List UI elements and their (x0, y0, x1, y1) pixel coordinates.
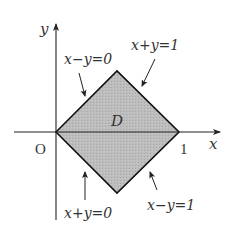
region-label: D (110, 112, 123, 130)
label-x-minus-y-eq-0: x−y=0 (64, 51, 112, 67)
label-x-plus-y-eq-0: x+y=0 (64, 205, 112, 221)
y-axis-label: y (39, 20, 49, 38)
pointer-arrow-upper-left (79, 73, 85, 96)
label-x-plus-y-eq-1: x+y=1 (131, 37, 179, 53)
pointer-arrow-lower-right (150, 172, 157, 190)
origin-label: O (35, 141, 46, 157)
region-diagram: y x O 1 D x−y=0 x+y=1 x+y=0 x−y=1 (0, 0, 242, 232)
pointer-arrow-upper-right (142, 59, 155, 86)
label-x-minus-y-eq-1: x−y=1 (147, 197, 195, 213)
x-tick-label-1: 1 (180, 141, 188, 157)
x-axis-label: x (209, 135, 218, 153)
